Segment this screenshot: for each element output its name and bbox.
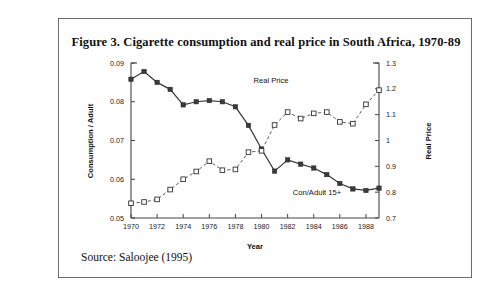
data-point-con-adult (364, 188, 368, 192)
source-note: Source: Saloojee (1995) (81, 251, 192, 263)
data-point-con-adult (377, 186, 381, 190)
y-axis-right-tick-label: 0.7 (386, 214, 396, 223)
y-axis-left-tick-label: 0.07 (110, 136, 124, 145)
x-axis-tick-label: 1976 (201, 222, 217, 231)
x-axis-tick-label: 1972 (149, 222, 165, 231)
y-axis-right-tick-label: 1 (386, 136, 390, 145)
data-point-con-adult (142, 69, 146, 73)
x-axis-tick-label: 1988 (358, 222, 374, 231)
y-axis-right-tick-label: 1.3 (386, 59, 396, 68)
data-point-con-adult (155, 80, 159, 84)
data-point-con-adult (312, 166, 316, 170)
data-point-con-adult (298, 162, 302, 166)
series-label-con-adult: Con/Adult 15+ (293, 188, 342, 197)
data-point-con-adult (325, 172, 329, 176)
chart-plot-area: 0.050.060.070.080.09 0.70.80.911.11.21.3… (59, 53, 473, 253)
data-point-real-price (272, 123, 277, 128)
data-point-con-adult (194, 100, 198, 104)
x-axis-tick-label: 1974 (175, 222, 191, 231)
data-point-real-price (181, 177, 186, 182)
data-point-real-price (338, 120, 343, 125)
data-point-real-price (233, 167, 238, 172)
data-point-real-price (285, 110, 290, 115)
x-axis-tick-label: 1984 (306, 222, 322, 231)
x-axis-tick-label: 1980 (254, 222, 270, 231)
data-point-real-price (311, 111, 316, 116)
data-point-real-price (351, 121, 356, 126)
page-title: Figure 3. Cigarette consumption and real… (59, 35, 473, 50)
y-axis-left-tick-label: 0.05 (110, 214, 124, 223)
data-point-con-adult (351, 187, 355, 191)
data-point-real-price (377, 88, 382, 93)
y-axis-right-tick-label: 1.1 (386, 110, 396, 119)
y-axis-right-tick-label: 0.8 (386, 188, 396, 197)
x-axis-tick-label: 1982 (280, 222, 296, 231)
series-label-real-price: Real Price (253, 76, 288, 85)
data-point-real-price (129, 201, 134, 206)
data-point-real-price (194, 169, 199, 174)
data-point-real-price (246, 150, 251, 155)
data-point-real-price (155, 197, 160, 202)
y-axis-left-tick-label: 0.08 (110, 97, 124, 106)
x-axis-tick-label: 1978 (227, 222, 243, 231)
y-axis-right-tick-label: 0.9 (386, 162, 396, 171)
y-axis-left-title: Consumption / Adult (86, 103, 95, 178)
data-point-con-adult (246, 123, 250, 127)
figure-card: Figure 3. Cigarette consumption and real… (58, 18, 472, 278)
data-point-real-price (324, 110, 329, 115)
y-axis-left-tick-label: 0.09 (110, 59, 124, 68)
data-point-con-adult (285, 158, 289, 162)
y-axis-right-title: Real Price (424, 123, 433, 160)
data-point-real-price (207, 159, 212, 164)
data-point-con-adult (220, 100, 224, 104)
y-axis-right-tick-label: 1.2 (386, 84, 396, 93)
data-point-con-adult (233, 105, 237, 109)
data-point-real-price (220, 168, 225, 173)
data-point-real-price (142, 200, 147, 205)
data-point-real-price (168, 187, 173, 192)
x-axis-title: Year (247, 242, 263, 251)
plot-background (131, 63, 379, 218)
x-axis-tick-label: 1986 (332, 222, 348, 231)
data-point-con-adult (129, 77, 133, 81)
data-point-con-adult (168, 87, 172, 91)
data-point-real-price (364, 102, 369, 107)
data-point-real-price (259, 149, 264, 154)
data-point-real-price (298, 116, 303, 121)
data-point-con-adult (181, 103, 185, 107)
chart-svg: 0.050.060.070.080.09 0.70.80.911.11.21.3… (59, 53, 473, 253)
data-point-con-adult (207, 98, 211, 102)
x-axis-tick-label: 1970 (123, 222, 139, 231)
data-point-con-adult (338, 181, 342, 185)
data-point-con-adult (272, 169, 276, 173)
y-axis-left-tick-label: 0.06 (110, 175, 124, 184)
